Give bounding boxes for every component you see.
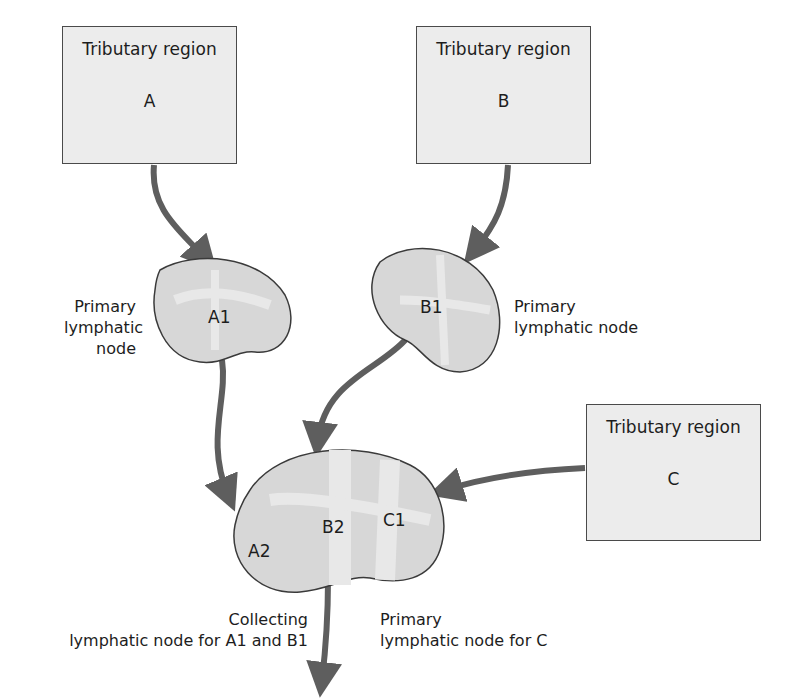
arrow-b1-to-b2 bbox=[318, 338, 407, 440]
node-label-a1: A1 bbox=[208, 307, 230, 327]
region-letter: C bbox=[587, 469, 760, 489]
region-title: Tributary region bbox=[417, 39, 590, 59]
label-primary-node-b1: Primary lymphatic node bbox=[514, 296, 638, 338]
label-collecting-node: Collecting lymphatic node for A1 and B1 bbox=[20, 609, 308, 651]
arrow-b-to-b1 bbox=[475, 165, 508, 250]
label-primary-node-c: Primary lymphatic node for C bbox=[380, 609, 547, 651]
arrow-b2-outflow bbox=[322, 580, 328, 680]
region-letter: B bbox=[417, 91, 590, 111]
region-letter: A bbox=[63, 91, 236, 111]
label-primary-node-a1: Primary lymphatic node bbox=[64, 296, 136, 359]
node-label-b2: B2 bbox=[322, 517, 344, 537]
tributary-region-c: Tributary region C bbox=[586, 404, 761, 541]
node-label-a2: A2 bbox=[248, 541, 270, 561]
region-title: Tributary region bbox=[63, 39, 236, 59]
tributary-region-a: Tributary region A bbox=[62, 26, 237, 164]
region-title: Tributary region bbox=[587, 417, 760, 437]
node-label-c1: C1 bbox=[383, 510, 406, 530]
arrow-a1-to-b2 bbox=[218, 360, 228, 495]
arrow-c-to-c1 bbox=[445, 468, 585, 490]
arrow-a-to-a1 bbox=[154, 165, 205, 258]
node-label-b1: B1 bbox=[420, 297, 442, 317]
tributary-region-b: Tributary region B bbox=[416, 26, 591, 164]
